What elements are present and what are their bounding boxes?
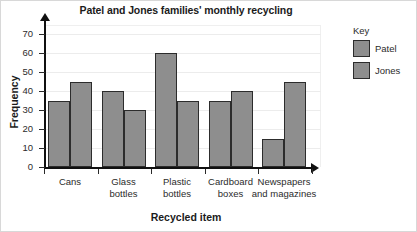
bar [70,82,92,167]
plot-right-edge [320,25,321,167]
bar [262,139,284,167]
bar [177,101,199,167]
x-axis-category-label-line: and magazines [244,188,324,200]
y-axis-tick [39,110,45,111]
plot-top-edge [45,25,321,26]
y-axis-tick [39,148,45,149]
x-axis-tick [151,169,152,174]
y-axis-tick [39,34,45,35]
legend-entries: PatelJones [353,40,415,79]
y-axis-tick [39,129,45,130]
x-axis-tick [44,169,45,174]
x-axis-tick [205,169,206,174]
legend-swatch [353,40,370,57]
gridline [45,34,321,35]
legend-entry: Patel [353,40,415,57]
x-axis-tick [258,169,259,174]
y-axis-tick-label: 70 [3,28,33,39]
x-axis-tick [312,169,313,174]
bar [231,91,253,167]
y-axis-tick [39,72,45,73]
bar [48,101,70,167]
y-axis-tick [39,167,45,168]
bar [102,91,124,167]
bar [284,82,306,167]
bar [209,101,231,167]
bar [155,53,177,167]
x-axis-line [44,167,312,169]
y-axis-tick-label: 0 [3,161,33,172]
legend-label: Patel [375,43,397,54]
legend-entry: Jones [353,62,415,79]
x-axis-category-label-line: Newspapers [244,176,324,188]
bar [124,110,146,167]
legend-swatch [353,62,370,79]
y-axis-tick [39,53,45,54]
y-axis-title: Frequency [8,52,20,152]
y-axis-tick [39,91,45,92]
gridline [45,53,321,54]
x-axis-tick [98,169,99,174]
y-axis-line [44,19,46,168]
x-axis-title: Recycled item [47,211,325,223]
legend-label: Jones [375,65,400,76]
y-axis-arrow-icon [40,13,50,21]
x-axis-category-label: Newspapersand magazines [244,176,324,199]
chart-title: Patel and Jones families' monthly recycl… [47,4,325,16]
legend-title: Key [353,25,415,36]
legend: Key PatelJones [353,25,415,84]
bar-chart-screenshot: Patel and Jones families' monthly recycl… [0,0,417,232]
gridline [45,72,321,73]
